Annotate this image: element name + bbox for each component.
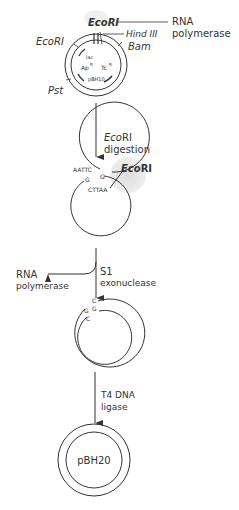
base-c-top: C <box>92 297 96 304</box>
ecori-left-label: EcoRI <box>36 36 64 47</box>
plasmid-pbh10: EcoRI EcoRI Hind III Bam Pst RNA polymer… <box>36 10 231 96</box>
step-label-line1: S1 <box>100 266 113 277</box>
step-s1-exonuclease: S1 exonuclease RNA polymerase <box>16 248 157 298</box>
plasmid-name-label: pBH20 <box>77 455 110 466</box>
sticky-end-cttaa: CTTAA <box>88 186 108 193</box>
step-label-line1: EcoRI <box>104 132 132 143</box>
plasmid-pbh20: pBH20 <box>58 424 130 496</box>
plasmid-linearized: AATTC G G CTTAA EcoRI <box>71 102 152 236</box>
pst-label: Pst <box>48 85 64 96</box>
tc-arrow <box>104 76 112 82</box>
sticky-end-g-right: G <box>100 173 105 180</box>
ap-superscript: R <box>90 62 93 67</box>
plasmid-construction-diagram: EcoRI EcoRI Hind III Bam Pst RNA polymer… <box>0 0 239 510</box>
rna-polymerase-label-1: RNA <box>16 269 37 280</box>
base-c-bottom: C <box>86 315 90 322</box>
sticky-end-g-left: G <box>85 176 90 183</box>
rna-polymerase-label-1: RNA <box>172 16 193 27</box>
lac-label: lac <box>86 54 93 60</box>
hind-label: Hind III <box>126 29 158 39</box>
step-t4-dna-ligase: T4 DNA ligase <box>95 372 136 423</box>
bam-label: Bam <box>128 41 151 52</box>
rna-polymerase-label-2: polymerase <box>172 28 231 39</box>
sticky-end-aattc: AATTC <box>73 166 92 173</box>
tc-label: Tc <box>100 64 107 71</box>
base-g-right: G <box>92 305 97 312</box>
tc-superscript: R <box>109 62 112 67</box>
pst-site <box>66 79 71 80</box>
step-label-line2: ligase <box>101 402 128 412</box>
ecori-left-site <box>74 44 79 48</box>
step-label-line1: T4 DNA <box>100 390 136 400</box>
outer-strand <box>65 34 127 96</box>
step-label-line2: exonuclease <box>100 278 157 288</box>
lac-arrow <box>79 49 85 56</box>
plasmid-name-label: pBH10 <box>88 76 105 83</box>
plasmid-blunt: C G G C <box>75 297 145 367</box>
ap-label: Ap <box>81 64 89 72</box>
side-arrow <box>48 262 96 274</box>
ap-arrow <box>78 74 84 81</box>
ecori-label: EcoRI <box>121 163 152 174</box>
rna-polymerase-label-2: polymerase <box>16 281 69 291</box>
step-label-line2: digestion <box>104 144 150 155</box>
ecori-top-label: EcoRI <box>88 17 119 28</box>
step-ecori-digestion: EcoRI digestion <box>96 103 150 157</box>
base-g-left: G <box>84 307 89 314</box>
